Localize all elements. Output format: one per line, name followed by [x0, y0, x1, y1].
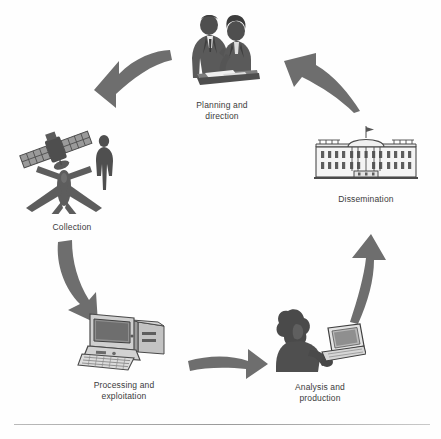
- stage-processing-and-exploitation: Processing and exploitation: [74, 310, 174, 402]
- satellite-person-aircraft-icon: [16, 124, 128, 218]
- arrow-dissemination-to-planning: [86, 44, 172, 114]
- footer-divider: [14, 424, 430, 425]
- arrow-processing-to-analysis: [186, 345, 270, 385]
- white-house-icon: [310, 126, 422, 190]
- intelligence-cycle-figure: Planning and direction: [0, 0, 441, 439]
- stage-dissemination: Dissemination: [306, 126, 426, 205]
- stage-analysis-and-production: Analysis and production: [270, 306, 370, 404]
- stage-label-collection: Collection: [53, 222, 92, 233]
- stage-label-planning-and-direction: Planning and direction: [196, 100, 247, 122]
- stage-collection: Collection: [14, 124, 130, 233]
- stage-planning-and-direction: Planning and direction: [176, 12, 268, 122]
- stage-label-processing-and-exploitation: Processing and exploitation: [94, 380, 155, 402]
- arrow-planning-to-dissemination: [278, 47, 362, 113]
- desktop-computer-icon: [76, 310, 172, 376]
- stage-label-dissemination: Dissemination: [338, 194, 393, 205]
- stage-label-analysis-and-production: Analysis and production: [295, 382, 345, 404]
- two-people-meeting-icon: [183, 12, 261, 96]
- analyst-at-computer-icon: [274, 306, 366, 378]
